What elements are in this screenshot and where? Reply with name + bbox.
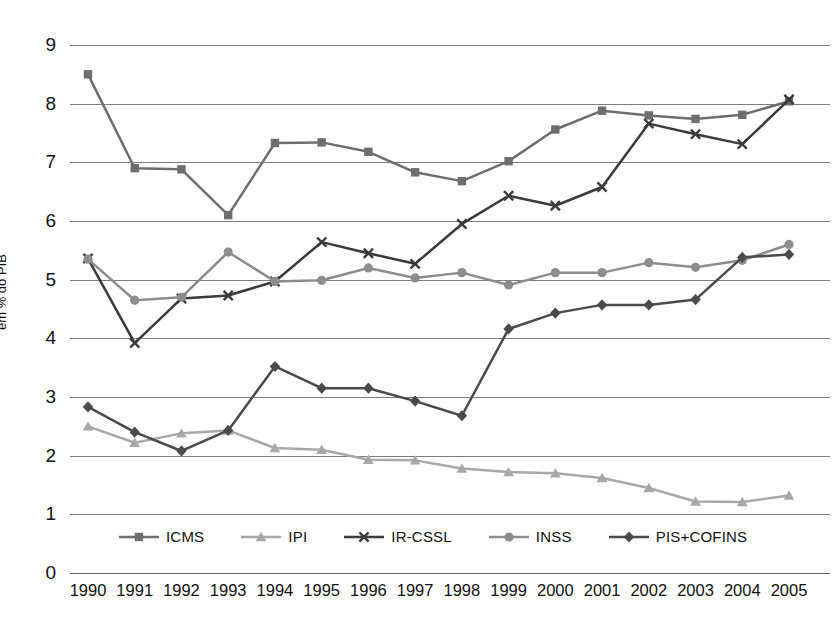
legend-marker-diamond-icon [608, 530, 650, 544]
data-point-circle [691, 263, 700, 272]
y-tick-label: 1 [45, 503, 56, 525]
y-tick-label: 4 [45, 327, 56, 349]
data-point-circle [177, 293, 186, 302]
x-tick-label: 1999 [490, 581, 527, 600]
data-point-circle [784, 240, 793, 249]
legend-item-ipi[interactable]: IPI [240, 528, 307, 545]
legend-item-pis-cofins[interactable]: PIS+COFINS [608, 528, 748, 545]
y-tick-label: 0 [45, 562, 56, 584]
data-point-diamond [410, 396, 420, 407]
data-point-circle [504, 532, 513, 541]
x-tick-label: 1992 [163, 581, 200, 600]
legend-label: IPI [288, 528, 307, 545]
series-icms [84, 70, 793, 219]
data-point-square [135, 532, 143, 540]
data-point-square [177, 165, 185, 173]
data-point-square [84, 70, 92, 78]
legend-item-icms[interactable]: ICMS [118, 528, 204, 545]
legend-marker-triangle-icon [240, 530, 282, 544]
data-point-diamond [363, 383, 373, 394]
chart-legend: ICMSIPIIR-CSSLINSSPIS+COFINS [118, 528, 747, 545]
y-tick-label: 3 [45, 386, 56, 408]
legend-marker-circle-icon [488, 530, 530, 544]
x-tick-label: 1997 [397, 581, 434, 600]
series-line [88, 426, 789, 502]
data-point-square [224, 211, 232, 219]
data-point-square [271, 139, 279, 147]
x-tick-label: 1993 [210, 581, 247, 600]
data-point-square [317, 138, 325, 146]
data-point-square [691, 115, 699, 123]
x-tick-label: 1995 [303, 581, 340, 600]
data-point-circle [551, 268, 560, 277]
data-point-square [411, 168, 419, 176]
y-tick-label: 7 [45, 151, 56, 173]
x-tick-label: 1990 [70, 581, 107, 600]
series-pis-cofins [83, 249, 794, 457]
legend-marker-square-icon [118, 530, 160, 544]
x-tick-label: 2002 [630, 581, 667, 600]
legend-label: IR-CSSL [391, 528, 452, 545]
x-tick-label: 2005 [771, 581, 808, 600]
data-point-diamond [503, 323, 513, 334]
x-tick-label: 1991 [116, 581, 153, 600]
x-tick-label: 2004 [724, 581, 761, 600]
data-point-circle [597, 268, 606, 277]
series-line [88, 100, 789, 343]
series-line [88, 254, 789, 451]
y-axis-ticks: 0123456789 [0, 0, 70, 627]
data-point-diamond [550, 308, 560, 319]
data-point-diamond [644, 299, 654, 310]
legend-marker-cross-icon [343, 530, 385, 544]
data-point-square [738, 111, 746, 119]
data-point-square [131, 164, 139, 172]
x-tick-label: 2003 [677, 581, 714, 600]
data-point-circle [364, 263, 373, 272]
x-tick-label: 2001 [584, 581, 621, 600]
data-point-circle [317, 276, 326, 285]
data-point-diamond [623, 531, 633, 542]
y-tick-label: 9 [45, 34, 56, 56]
legend-label: ICMS [166, 528, 204, 545]
data-point-square [458, 177, 466, 185]
data-point-cross [130, 338, 139, 347]
data-point-circle [411, 273, 420, 282]
y-axis-title: em % do PIB [0, 254, 9, 330]
data-point-diamond [784, 249, 794, 260]
y-tick-label: 5 [45, 269, 56, 291]
x-axis-ticks: 1990199119921993199419951996199719981999… [70, 581, 830, 613]
data-point-diamond [176, 445, 186, 456]
y-tick-label: 2 [45, 445, 56, 467]
data-point-diamond [457, 410, 467, 421]
data-point-square [364, 148, 372, 156]
data-point-square [645, 111, 653, 119]
series-ipi [83, 421, 795, 506]
data-point-cross [457, 219, 466, 228]
data-point-diamond [130, 427, 140, 438]
legend-label: PIS+COFINS [656, 528, 748, 545]
legend-item-ir-cssl[interactable]: IR-CSSL [343, 528, 452, 545]
series-inss [83, 240, 793, 305]
data-point-triangle [83, 421, 94, 430]
data-point-diamond [597, 299, 607, 310]
data-point-circle [224, 247, 233, 256]
data-point-diamond [316, 383, 326, 394]
data-point-square [551, 125, 559, 133]
data-point-square [504, 157, 512, 165]
data-point-diamond [83, 401, 93, 412]
legend-item-inss[interactable]: INSS [488, 528, 572, 545]
series-line [88, 244, 789, 300]
data-point-circle [644, 258, 653, 267]
data-point-circle [504, 280, 513, 289]
data-point-square [598, 107, 606, 115]
series-line [88, 74, 789, 215]
y-tick-label: 8 [45, 93, 56, 115]
x-tick-label: 1998 [444, 581, 481, 600]
gridline-0 [70, 573, 830, 574]
legend-label: INSS [536, 528, 572, 545]
data-point-circle [270, 277, 279, 286]
data-point-circle [457, 268, 466, 277]
x-tick-label: 1994 [257, 581, 294, 600]
series-ir-cssl [83, 95, 793, 348]
x-tick-label: 2000 [537, 581, 574, 600]
